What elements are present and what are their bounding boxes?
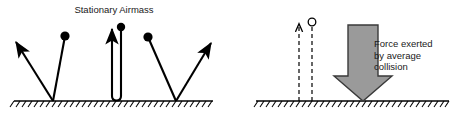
incoming-path-right bbox=[148, 37, 176, 101]
molecule-ball-center bbox=[117, 23, 125, 31]
molecule-ball-right bbox=[143, 32, 152, 41]
right-panel: Force exerted by average collision bbox=[254, 18, 449, 107]
stationary-airmass-title: Stationary Airmass bbox=[74, 4, 153, 15]
force-caption-line-1: Force exerted bbox=[374, 38, 433, 49]
molecule-ball-left bbox=[60, 31, 69, 40]
molecule-outline-circle bbox=[308, 18, 316, 26]
rebound-arrow-left bbox=[16, 42, 53, 101]
left-ground-hatching bbox=[10, 101, 212, 107]
force-caption-line-3: collision bbox=[374, 61, 408, 72]
rebound-arrow-right bbox=[176, 43, 211, 101]
physics-diagram-figure: Stationary Airmass bbox=[0, 0, 454, 126]
diagram-canvas: Stationary Airmass bbox=[0, 0, 454, 126]
incoming-path-left bbox=[53, 36, 65, 101]
right-ground-hatching bbox=[254, 101, 449, 107]
force-caption-line-2: by average bbox=[374, 50, 421, 61]
left-panel: Stationary Airmass bbox=[10, 4, 213, 107]
vertical-bounce-path bbox=[112, 29, 121, 101]
